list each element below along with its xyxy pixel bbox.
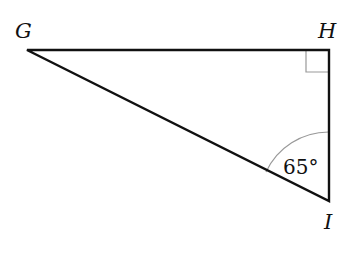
vertex-label-i: I xyxy=(323,210,333,234)
vertex-label-h: H xyxy=(317,19,337,43)
triangle-diagram: G H I 65° xyxy=(0,0,353,254)
vertex-label-g: G xyxy=(15,19,32,43)
right-angle-marker xyxy=(306,50,329,72)
angle-label-i: 65° xyxy=(283,155,318,179)
